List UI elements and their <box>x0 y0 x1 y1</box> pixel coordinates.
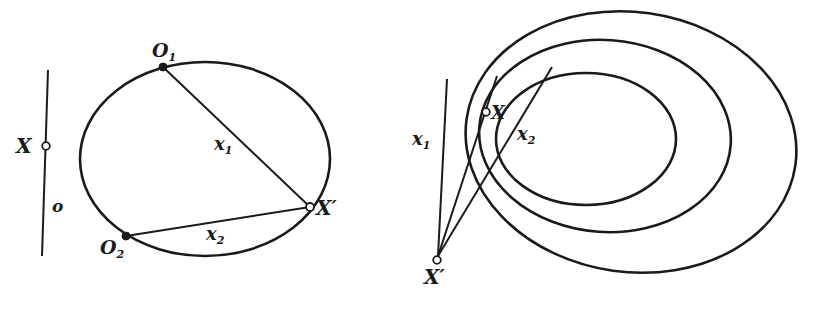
line-o-label: o <box>52 196 63 216</box>
diagram-canvas: o X O1 O2 X′ x1 <box>0 0 819 311</box>
line-x2 <box>438 67 552 256</box>
point-X <box>42 142 50 150</box>
line-o <box>42 70 48 256</box>
point-O1-label: O1 <box>152 39 176 64</box>
left-figure: o X O1 O2 X′ x1 <box>14 39 338 261</box>
diagram-svg: o X O1 O2 X′ x1 <box>0 0 819 311</box>
chord-x2-label: x2 <box>205 223 225 247</box>
line-x2-label: x2 <box>516 123 536 147</box>
point-O1 <box>159 63 167 71</box>
line-x1 <box>438 79 447 256</box>
point-Xprime-label: X′ <box>314 196 338 220</box>
point-Xprime <box>306 203 314 211</box>
point-X-right <box>482 108 490 116</box>
right-figure: X X′ x1 x2 <box>411 0 813 294</box>
middle-ellipse <box>473 31 738 240</box>
chord-x1-label: x1 <box>213 133 232 157</box>
chord-x2 <box>126 207 310 236</box>
point-O2-label: O2 <box>100 236 125 261</box>
point-O2 <box>122 232 130 240</box>
conic-ellipse <box>80 62 330 256</box>
line-x1-label: x1 <box>411 128 430 152</box>
point-X-label: X <box>14 134 33 158</box>
point-Xprime-right <box>433 256 441 264</box>
point-X-right-label: X <box>490 102 506 123</box>
point-Xprime-right-label: X′ <box>422 265 446 289</box>
